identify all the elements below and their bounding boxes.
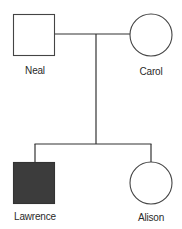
pedigree-chart	[0, 0, 182, 229]
label-carol: Carol	[116, 66, 182, 77]
individual-alison-female-circle[interactable]	[130, 162, 172, 204]
individual-lawrence-affected-male-square[interactable]	[14, 163, 55, 204]
individual-neal-male-square[interactable]	[14, 15, 55, 56]
label-lawrence: Lawrence	[0, 211, 70, 222]
label-neal: Neal	[0, 65, 70, 76]
label-alison: Alison	[116, 212, 182, 223]
individual-carol-female-circle[interactable]	[130, 14, 172, 56]
